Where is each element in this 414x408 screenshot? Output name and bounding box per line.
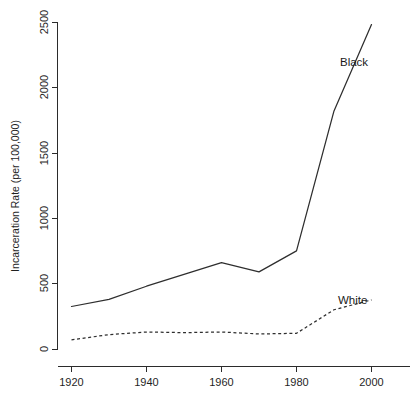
y-tick-label-1500: 1500 <box>38 141 50 165</box>
series-line-black <box>72 25 372 307</box>
y-tick-label-2500: 2500 <box>38 10 50 34</box>
x-axis-tick-labels: 1920 1940 1960 1980 2000 <box>59 376 383 388</box>
y-tick-label-2000: 2000 <box>38 75 50 99</box>
y-tick-label-0: 0 <box>38 346 50 352</box>
x-tick-label-1980: 1980 <box>284 376 308 388</box>
y-axis-ticks <box>52 23 58 350</box>
x-tick-label-1940: 1940 <box>134 376 158 388</box>
y-tick-label-500: 500 <box>38 274 50 292</box>
series-line-white <box>72 300 372 340</box>
x-tick-label-1960: 1960 <box>209 376 233 388</box>
x-axis-ticks <box>72 367 372 373</box>
chart-container: 0 500 1000 1500 2000 2500 1920 1940 1960… <box>0 0 414 408</box>
y-axis-title: Incarceration Rate (per 100,000) <box>9 120 21 272</box>
series-annotation-black: Black <box>340 56 368 68</box>
y-tick-label-1000: 1000 <box>38 206 50 230</box>
x-tick-label-1920: 1920 <box>59 376 83 388</box>
y-axis-tick-labels: 0 500 1000 1500 2000 2500 <box>38 10 50 352</box>
x-tick-label-2000: 2000 <box>359 376 383 388</box>
series-annotation-white: White <box>338 294 367 306</box>
incarceration-rate-line-chart: 0 500 1000 1500 2000 2500 1920 1940 1960… <box>0 0 414 408</box>
